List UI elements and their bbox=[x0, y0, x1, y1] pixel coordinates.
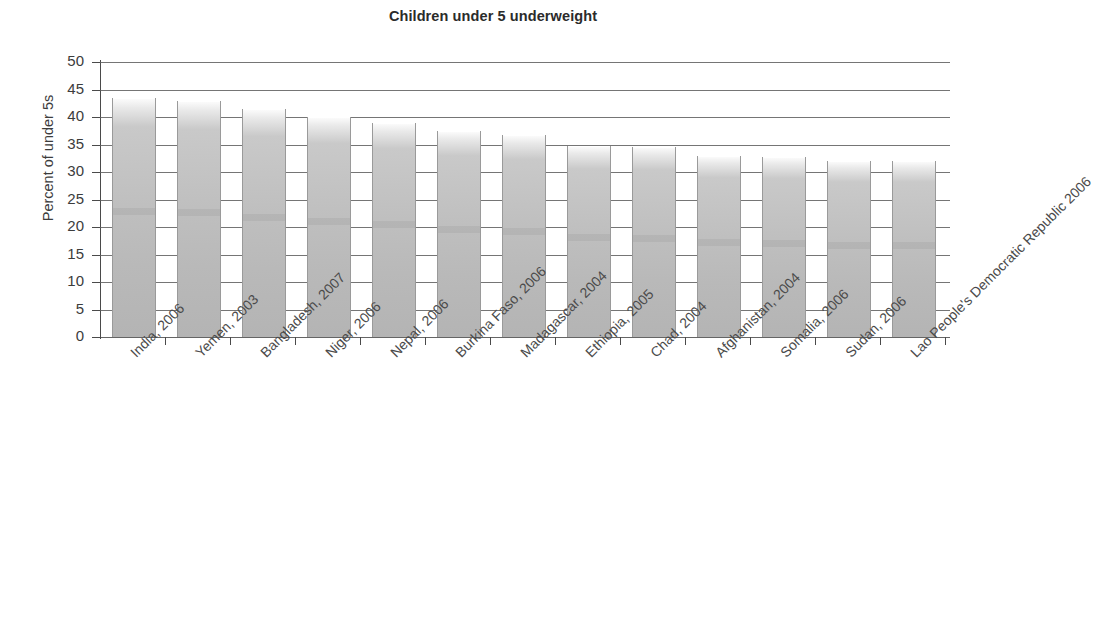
x-axis-label: Chad, 2004 bbox=[647, 298, 710, 361]
x-axis-label: Lao People's Democratic Republic 2006 bbox=[907, 173, 1094, 360]
x-axis-label: Sudan, 2006 bbox=[842, 293, 909, 360]
x-axis-label: Nepal, 2006 bbox=[387, 296, 452, 361]
x-axis-label: India, 2006 bbox=[127, 300, 187, 360]
x-axis-label: Niger, 2006 bbox=[322, 298, 384, 360]
x-axis-label: Yemen, 2003 bbox=[192, 291, 261, 360]
x-axis-label: Ethiopia, 2005 bbox=[582, 286, 657, 361]
x-axis-label: Somalia, 2006 bbox=[777, 286, 852, 361]
